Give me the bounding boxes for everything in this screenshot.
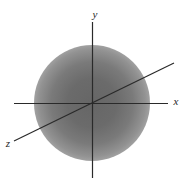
y-axis-label: y [93, 9, 98, 20]
x-axis-label: x [174, 96, 179, 107]
axes-lines [0, 0, 188, 187]
z-axis-label: z [6, 138, 10, 149]
z-axis-line [14, 63, 174, 141]
coordinate-diagram: y x z [0, 0, 188, 187]
